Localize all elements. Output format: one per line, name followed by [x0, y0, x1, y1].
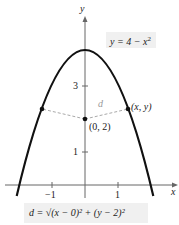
curve-equation-text: y = 4 − x	[110, 36, 147, 47]
curve-equation-exponent: 2	[147, 35, 151, 43]
y-axis-label: y	[80, 4, 84, 14]
curve-equation: y = 4 − x2	[110, 36, 151, 47]
distance-line-left	[42, 109, 85, 119]
point-mirror	[40, 107, 45, 112]
point-center	[83, 117, 88, 122]
distance-label: d	[98, 99, 103, 109]
distance-line-right	[85, 109, 128, 119]
point-center-label: (0, 2)	[89, 122, 111, 132]
tick-label-x-neg1: −1	[45, 190, 56, 200]
point-xy-label: (x, y)	[131, 102, 152, 112]
point-xy	[126, 107, 131, 112]
tick-label-y-3: 3	[73, 81, 78, 91]
tick-label-x-1: 1	[115, 190, 120, 200]
x-axis-label: x	[171, 187, 175, 197]
distance-formula: d = √(x − 0)² + (y − 2)²	[29, 208, 125, 218]
tick-label-y-1: 1	[73, 147, 78, 157]
y-axis-arrow-icon	[83, 16, 88, 22]
